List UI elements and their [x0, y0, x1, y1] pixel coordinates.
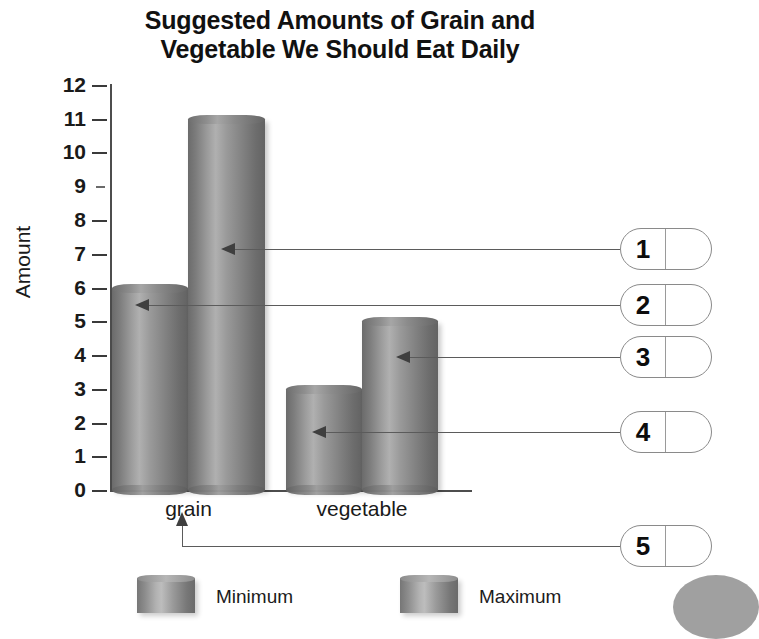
y-axis-title: Amount: [11, 212, 35, 312]
y-tick-7: [92, 254, 107, 256]
y-tick-1: [92, 456, 107, 458]
bar-foot: [188, 485, 265, 495]
callout-answer-2[interactable]: [666, 285, 711, 325]
y-tick-label-12: 12: [52, 74, 86, 95]
bar-cap: [362, 317, 438, 326]
x-label-vegetable: vegetable: [286, 497, 438, 521]
arrow-3-icon: [396, 351, 410, 363]
leader-line-3: [409, 357, 620, 358]
y-tick-10: [92, 152, 107, 154]
callout-answer-3[interactable]: [666, 337, 711, 377]
y-tick-9: [96, 186, 105, 188]
y-tick-label-0: 0: [52, 479, 86, 500]
legend-label-minimum: Minimum: [216, 586, 293, 608]
bar-vegetable-minimum: [286, 389, 362, 490]
legend-swatch-minimum: [137, 578, 195, 613]
leader-line-2: [148, 305, 620, 306]
y-tick-0: [92, 490, 107, 492]
callout-pill-2[interactable]: 2: [620, 284, 712, 326]
x-label-grain: grain: [112, 497, 265, 521]
y-tick-11: [92, 119, 107, 121]
arrow-5-icon: [176, 512, 188, 526]
y-tick-label-9: 9: [52, 175, 86, 196]
y-tick-label-11: 11: [52, 108, 86, 129]
legend-label-maximum: Maximum: [479, 586, 561, 608]
bar-vegetable-maximum: [362, 321, 438, 490]
y-tick-label-6: 6: [52, 277, 86, 298]
bar-cap: [286, 385, 362, 394]
legend-swatch-cap: [400, 575, 458, 582]
decorative-corner-shape: [673, 575, 759, 639]
callout-number-2: 2: [621, 285, 666, 325]
y-tick-label-8: 8: [52, 209, 86, 230]
legend-swatch-cap: [137, 575, 195, 582]
bar-foot: [362, 485, 438, 495]
callout-pill-1[interactable]: 1: [620, 228, 712, 270]
y-tick-label-4: 4: [52, 344, 86, 365]
callout-answer-5[interactable]: [666, 526, 711, 566]
chart-legend: Minimum Maximum: [0, 570, 737, 613]
callout-answer-1[interactable]: [666, 229, 711, 269]
callout-pill-5[interactable]: 5: [620, 525, 712, 567]
y-tick-6: [92, 288, 107, 290]
leader-line-5-vertical: [182, 525, 183, 547]
y-tick-label-2: 2: [52, 412, 86, 433]
y-tick-8: [92, 220, 107, 222]
arrow-2-icon: [135, 299, 149, 311]
callout-number-4: 4: [621, 412, 666, 452]
y-tick-3: [92, 389, 107, 391]
leader-line-4: [325, 432, 620, 433]
y-tick-label-10: 10: [52, 141, 86, 162]
y-tick-4: [92, 355, 107, 357]
y-tick-label-5: 5: [52, 310, 86, 331]
arrow-1-icon: [221, 243, 235, 255]
y-tick-label-3: 3: [52, 378, 86, 399]
bar-foot: [112, 485, 188, 495]
bar-cap: [112, 284, 188, 293]
leader-line-5: [182, 546, 620, 547]
callout-number-3: 3: [621, 337, 666, 377]
legend-swatch-maximum: [400, 578, 458, 613]
bar-grain-minimum: [112, 288, 188, 490]
callout-number-1: 1: [621, 229, 666, 269]
arrow-4-icon: [312, 426, 326, 438]
y-tick-label-1: 1: [52, 445, 86, 466]
callout-pill-3[interactable]: 3: [620, 336, 712, 378]
callout-pill-4[interactable]: 4: [620, 411, 712, 453]
y-tick-2: [92, 423, 107, 425]
y-tick-12: [92, 85, 107, 87]
callout-number-5: 5: [621, 526, 666, 566]
y-tick-label-7: 7: [52, 243, 86, 264]
callout-answer-4[interactable]: [666, 412, 711, 452]
leader-line-1: [234, 249, 620, 250]
y-tick-5: [92, 321, 107, 323]
bar-foot: [286, 485, 362, 495]
bar-cap: [188, 115, 265, 124]
